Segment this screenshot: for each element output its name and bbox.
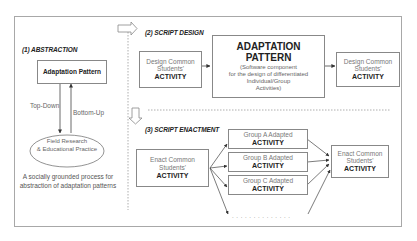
script-enactment-title: (3) SCRIPT ENACTMENT <box>145 126 219 133</box>
design-common-activity-result-box: Design Common Students' ACTIVITY <box>336 52 400 87</box>
field-research-ellipse: Field Research & Educational Practice <box>30 138 104 154</box>
more-groups-ellipsis: . . . . . . . . . . . . . . <box>232 213 291 219</box>
enact-common-activity-box: Enact Common Students' ACTIVITY <box>136 149 209 187</box>
adaptation-pattern-box: Adaptation Pattern <box>37 60 107 84</box>
group-b-activity-box: Group B Adapted ACTIVITY <box>228 152 308 172</box>
abstraction-caption: A socially grounded process for abstract… <box>16 173 120 191</box>
top-down-label: Top-Down <box>30 102 59 109</box>
adaptation-pattern-label: Adaptation Pattern <box>43 68 101 76</box>
connector-lines <box>0 0 417 241</box>
script-design-title: (2) SCRIPT DESIGN <box>145 29 204 36</box>
group-a-activity-box: Group A Adapted ACTIVITY <box>228 129 308 149</box>
group-c-activity-box: Group C Adapted ACTIVITY <box>228 175 308 195</box>
adaptation-pattern-component-box: ADAPTATION PATTERN (Software component f… <box>212 35 325 98</box>
bottom-up-label: Bottom-Up <box>73 109 104 116</box>
enact-common-activity-result-box: Enact Common Students' ACTIVITY <box>331 145 389 178</box>
abstraction-title: (1) ABSTRACTION <box>22 46 77 53</box>
design-common-activity-box: Design Common Students' ACTIVITY <box>139 51 202 88</box>
